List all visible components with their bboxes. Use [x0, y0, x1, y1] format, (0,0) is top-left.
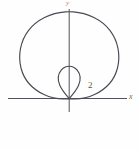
x-intercept-value-label: 2: [88, 81, 93, 90]
x-axis-label: x: [129, 93, 133, 101]
polar-curve-figure: y x 2: [0, 0, 139, 149]
plot-canvas: [0, 0, 139, 149]
y-axis-label: y: [66, 0, 69, 7]
